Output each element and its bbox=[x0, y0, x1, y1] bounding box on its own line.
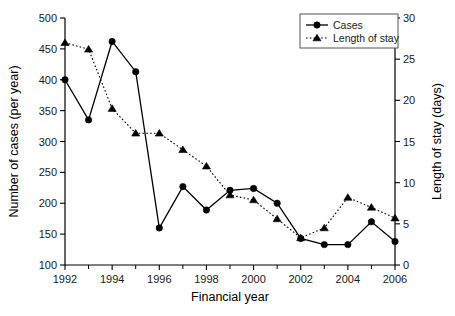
data-point bbox=[179, 146, 187, 153]
data-point bbox=[321, 241, 327, 247]
chart-svg: 1001502002503003504004505000510152025301… bbox=[0, 0, 455, 316]
y2-tick-label: 15 bbox=[403, 136, 415, 148]
data-point bbox=[345, 241, 351, 247]
data-point bbox=[108, 105, 116, 112]
data-point bbox=[109, 38, 115, 44]
y2-tick-label: 30 bbox=[403, 12, 415, 24]
y-tick-label: 250 bbox=[39, 166, 57, 178]
y-tick-label: 150 bbox=[39, 228, 57, 240]
data-point bbox=[368, 219, 374, 225]
y-tick-label: 200 bbox=[39, 197, 57, 209]
y-tick-label: 500 bbox=[39, 12, 57, 24]
legend-label: Cases bbox=[333, 19, 363, 31]
data-point bbox=[85, 117, 91, 123]
y2-tick-label: 25 bbox=[403, 53, 415, 65]
x-tick-label: 2004 bbox=[336, 273, 360, 285]
x-tick-label: 2006 bbox=[383, 273, 407, 285]
legend-marker bbox=[314, 22, 320, 28]
x-tick-label: 2002 bbox=[288, 273, 312, 285]
series-cases bbox=[62, 38, 398, 248]
x-tick-label: 1998 bbox=[194, 273, 218, 285]
x-tick-label: 1992 bbox=[53, 273, 77, 285]
data-point bbox=[250, 185, 256, 191]
chart-figure: 1001502002503003504004505000510152025301… bbox=[0, 0, 455, 316]
series-line bbox=[65, 43, 395, 238]
x-tick-label: 2000 bbox=[241, 273, 265, 285]
y-axis-title: Number of cases (per year) bbox=[7, 65, 21, 217]
y2-tick-label: 10 bbox=[403, 177, 415, 189]
data-point bbox=[133, 69, 139, 75]
y-tick-label: 100 bbox=[39, 259, 57, 271]
data-point bbox=[61, 39, 69, 46]
data-point bbox=[202, 162, 210, 169]
data-point bbox=[344, 194, 352, 201]
data-point bbox=[156, 225, 162, 231]
y-tick-label: 450 bbox=[39, 43, 57, 55]
data-point bbox=[180, 183, 186, 189]
data-point bbox=[62, 77, 68, 83]
x-tick-label: 1994 bbox=[100, 273, 124, 285]
data-point bbox=[274, 200, 280, 206]
y-tick-label: 300 bbox=[39, 136, 57, 148]
series-length-of-stay bbox=[61, 39, 399, 241]
legend-label: Length of stay bbox=[333, 32, 400, 44]
data-point bbox=[392, 238, 398, 244]
y-tick-label: 400 bbox=[39, 74, 57, 86]
data-point bbox=[250, 196, 258, 203]
x-axis-title: Financial year bbox=[191, 290, 269, 304]
data-point bbox=[85, 46, 93, 53]
y2-tick-label: 5 bbox=[403, 218, 409, 230]
legend: CasesLength of stay bbox=[300, 14, 400, 48]
x-tick-label: 1996 bbox=[147, 273, 171, 285]
y2-tick-label: 20 bbox=[403, 94, 415, 106]
y2-axis-title: Length of stay (days) bbox=[430, 83, 444, 200]
y-tick-label: 350 bbox=[39, 105, 57, 117]
data-point bbox=[391, 214, 399, 221]
series-line bbox=[65, 41, 395, 244]
y2-tick-label: 0 bbox=[403, 259, 409, 271]
data-point bbox=[203, 207, 209, 213]
data-point bbox=[155, 130, 163, 137]
data-point bbox=[273, 215, 281, 222]
data-point bbox=[367, 204, 375, 211]
axes-frame bbox=[65, 18, 395, 265]
